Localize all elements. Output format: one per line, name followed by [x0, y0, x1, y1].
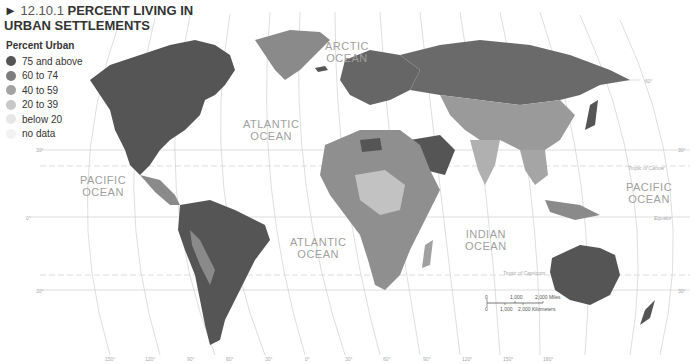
legend-item: 40 to 59: [6, 83, 83, 98]
legend-label: 60 to 74: [22, 70, 58, 81]
lon-label: 0°: [305, 356, 310, 362]
label-tropic-cancer: Tropic of Cancer: [628, 165, 665, 171]
lat-30n: 30°: [36, 147, 44, 153]
legend-item: 20 to 39: [6, 98, 83, 113]
lon-label: 90°: [423, 356, 431, 362]
legend-item: no data: [6, 127, 83, 142]
scale-bar: 0 1,000 2,000 Miles 0 1,000 2,000 Kilome…: [485, 293, 555, 318]
lon-label: 60°: [226, 356, 234, 362]
lon-label: 30°: [265, 356, 273, 362]
legend-label: 75 and above: [22, 56, 83, 67]
label-atlantic-ocean-north: ATLANTICOCEAN: [243, 118, 299, 142]
lat-30n-right: 30°: [678, 147, 686, 153]
madagascar: [422, 240, 433, 268]
label-tropic-capricorn: Tropic of Capricorn: [503, 270, 545, 276]
lat-30s-right: 30°: [678, 288, 686, 294]
north-america: [90, 40, 235, 175]
lon-label: 120°: [462, 356, 472, 362]
legend-label: no data: [22, 128, 55, 139]
map-title: ► 12.10.1 PERCENT LIVING IN URBAN SETTLE…: [4, 3, 193, 33]
lon-label: 180°: [543, 356, 553, 362]
lon-label: 60°: [383, 356, 391, 362]
swatch-below-20: [6, 114, 16, 124]
india: [470, 140, 500, 185]
lon-label: 150°: [503, 356, 513, 362]
legend-label: 20 to 39: [22, 99, 58, 110]
legend-item: below 20: [6, 112, 83, 127]
lon-label: 30°: [345, 356, 353, 362]
lon-label: 120°: [145, 356, 155, 362]
legend: Percent Urban 75 and above 60 to 74 40 t…: [6, 40, 83, 141]
label-pacific-ocean-west: PACIFICOCEAN: [80, 174, 126, 198]
title-line2: URBAN SETTLEMENTS: [4, 18, 150, 33]
lon-label: 150°: [105, 356, 115, 362]
greenland: [255, 30, 330, 80]
swatch-75-above: [6, 56, 16, 66]
russia: [400, 40, 630, 105]
lon-label: 90°: [187, 356, 195, 362]
south-america: [178, 200, 270, 345]
legend-heading: Percent Urban: [6, 40, 83, 51]
lat-0: 0°: [26, 215, 31, 221]
label-indian-ocean: INDIANOCEAN: [465, 228, 507, 252]
legend-label: 40 to 59: [22, 85, 58, 96]
central-america: [140, 175, 180, 205]
title-marker: ►: [4, 3, 17, 18]
legend-label: below 20: [22, 114, 62, 125]
label-equator: Equator: [654, 215, 672, 221]
swatch-40-59: [6, 85, 16, 95]
label-atlantic-ocean-south: ATLANTICOCEAN: [290, 236, 346, 260]
title-line1: PERCENT LIVING IN: [68, 3, 194, 18]
label-arctic-ocean: ARCTICOCEAN: [325, 40, 369, 64]
swatch-no-data: [6, 129, 16, 139]
lat-30s: 30°: [36, 288, 44, 294]
legend-item: 60 to 74: [6, 69, 83, 84]
iceland: [315, 66, 328, 72]
se-asia: [520, 150, 548, 185]
lat-60n: 60°: [645, 78, 653, 84]
swatch-60-74: [6, 71, 16, 81]
label-pacific-ocean-east: PACIFICOCEAN: [626, 181, 672, 205]
new-zealand: [640, 300, 655, 325]
japan: [585, 100, 598, 130]
legend-item: 75 and above: [6, 54, 83, 69]
swatch-20-39: [6, 100, 16, 110]
title-number: 12.10.1: [21, 3, 64, 18]
